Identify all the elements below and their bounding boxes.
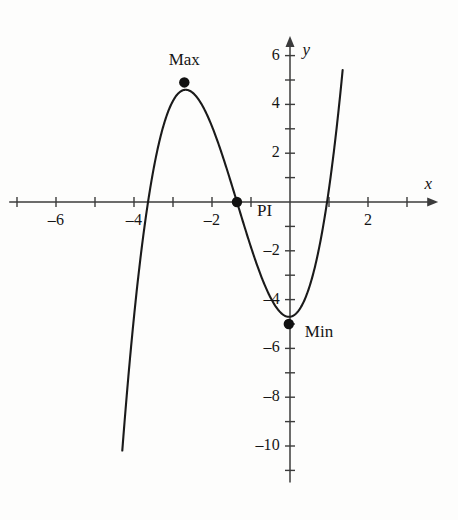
y-tick-label--2: –2 [264,241,280,259]
x-axis-name: x [425,174,433,194]
y-tick-label--4: –4 [264,290,280,308]
y-tick-label-4: 4 [272,94,280,112]
annotation-label-max: Max [169,50,200,70]
cubic-curve [122,70,342,451]
y-tick-label--8: –8 [264,387,280,405]
x-tick-label--2: –2 [204,211,220,229]
x-tick-label--6: –6 [48,211,64,229]
y-tick-label--10: –10 [255,436,280,454]
x-tick-label--4: –4 [126,211,142,229]
annotation-label-pi: PI [257,201,272,221]
annotation-label-min: Min [305,322,333,342]
y-axis-arrowhead [286,36,295,47]
function-graph-figure: –6–4–22642–2–4–6–8–10xyMaxPIMin [0,0,458,520]
data-point-max[interactable] [179,77,189,87]
x-axis-arrowhead [427,198,438,207]
x-tick-label-2: 2 [364,211,372,229]
data-point-pi[interactable] [232,197,242,207]
y-tick-label-2: 2 [272,143,280,161]
graph-canvas [0,0,458,520]
data-point-min[interactable] [284,319,294,329]
y-tick-label--6: –6 [264,338,280,356]
y-axis-name: y [302,40,310,60]
y-tick-label-6: 6 [272,46,280,64]
